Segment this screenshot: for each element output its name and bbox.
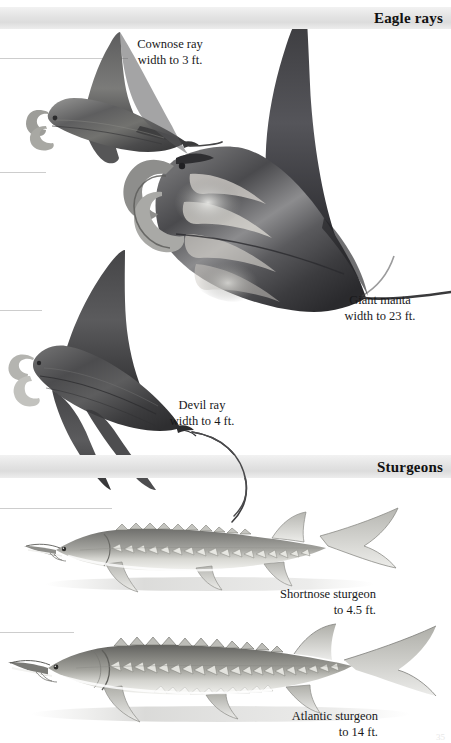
devil-ray-illustration: [6, 250, 256, 490]
section-title-sturgeons: Sturgeons: [377, 458, 443, 475]
shortnose-sturgeon-illustration: [20, 496, 410, 596]
guide-line-2: [0, 172, 46, 173]
section-band-eagle-rays: Eagle rays: [0, 7, 451, 29]
caption-atlantic-sturgeon: Atlantic sturgeon to 14 ft.: [256, 708, 378, 740]
caption-giant-manta-line2: width to 23 ft.: [328, 308, 432, 324]
caption-cownose-ray-line1: Cownose ray: [122, 36, 218, 52]
field-guide-page: Eagle rays Sturgeons: [0, 0, 451, 743]
caption-cownose-ray: Cownose ray width to 3 ft.: [122, 36, 218, 68]
caption-atlantic-sturgeon-line2: to 14 ft.: [256, 724, 378, 740]
caption-giant-manta-line1: Giant manta: [328, 292, 432, 308]
caption-devil-ray-line2: width to 4 ft.: [156, 413, 248, 429]
caption-devil-ray-line1: Devil ray: [156, 397, 248, 413]
atlantic-sturgeon-illustration: [6, 616, 447, 726]
caption-shortnose-sturgeon: Shortnose sturgeon to 4.5 ft.: [246, 586, 376, 618]
caption-atlantic-sturgeon-line1: Atlantic sturgeon: [256, 708, 378, 724]
caption-cownose-ray-line2: width to 3 ft.: [122, 52, 218, 68]
caption-shortnose-sturgeon-line1: Shortnose sturgeon: [246, 586, 376, 602]
section-title-eagle-rays: Eagle rays: [374, 10, 443, 27]
page-number: 35: [436, 732, 445, 742]
caption-devil-ray: Devil ray width to 4 ft.: [156, 397, 248, 429]
caption-giant-manta: Giant manta width to 23 ft.: [328, 292, 432, 324]
section-band-sturgeons: Sturgeons: [0, 455, 451, 478]
caption-shortnose-sturgeon-line2: to 4.5 ft.: [246, 602, 376, 618]
